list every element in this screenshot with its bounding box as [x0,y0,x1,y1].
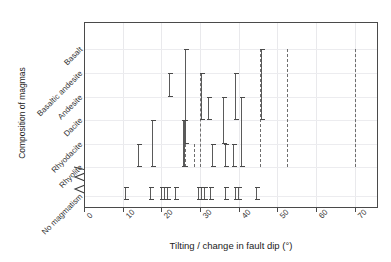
range-bar-cap [211,166,216,167]
x-tick-label: 0 [85,211,95,221]
no-magmatism-mark [225,187,226,200]
range-bar-cap [203,199,208,200]
range-bar-cap [151,166,156,167]
horizontal-gridline [84,196,378,197]
range-bar-cap [255,187,260,188]
range-bar-cap [174,187,179,188]
range-bar [235,73,236,120]
range-bar-cap [183,120,188,121]
plot-area [84,22,378,208]
range-bar-cap [151,120,156,121]
range-bar-cap [211,144,216,145]
range-bar-cap [224,199,229,200]
range-bar-cap [234,119,239,120]
range-bar-cap [224,187,229,188]
range-bar-cap [232,144,237,145]
range-bar-cap [168,96,173,97]
range-bar-cap [240,166,245,167]
range-bar [184,120,185,167]
range-bar [223,97,224,144]
no-magmatism-mark [150,187,151,200]
x-tick [316,208,317,212]
range-bar-cap [224,166,229,167]
range-bar-cap [237,199,242,200]
horizontal-gridline [84,73,378,74]
no-magmatism-mark [175,187,176,200]
range-bar-cap [222,97,227,98]
range-bar-cap [166,199,171,200]
range-bar [152,120,153,167]
range-bar-cap [224,144,229,145]
range-bar [169,73,170,97]
range-bar [225,144,226,167]
range-bar-cap [237,187,242,188]
range-bar-cap [207,97,212,98]
y-axis-title: Composition of magmas [17,43,27,183]
chart-figure: Composition of magmas BasaltBasaltic and… [0,0,391,262]
range-bar [185,49,186,144]
no-magmatism-mark [125,187,126,200]
x-tick [123,208,124,212]
x-tick-label: 50 [278,208,291,221]
x-axis-title: Tilting / change in fault dip (°) [84,240,378,251]
range-bar-cap [183,166,188,167]
range-bar-cap [260,49,265,50]
range-bar-cap [260,119,265,120]
horizontal-gridline [84,167,378,168]
x-tick [84,208,85,212]
x-tick-label: 60 [317,208,330,221]
x-tick-label: 30 [201,208,214,221]
x-tick [200,208,201,212]
range-bar-cap [184,49,189,50]
no-magmatism-mark [167,187,168,200]
no-magmatism-mark [210,187,211,200]
range-bar-cap [200,73,205,74]
range-bar [261,49,262,120]
range-bar-cap [124,199,129,200]
range-bar-cap [137,166,142,167]
horizontal-gridline [84,97,378,98]
range-bar-cap [232,166,237,167]
range-bar-cap [203,187,208,188]
range-bar-cap [137,144,142,145]
no-magmatism-mark [238,187,239,200]
range-bar-cap [209,199,214,200]
range-bar [138,144,139,167]
x-tick [277,208,278,212]
no-magmatism-mark [235,187,236,200]
horizontal-gridline [84,49,378,50]
range-bar-cap [124,187,129,188]
range-bar-cap [234,73,239,74]
range-bar-cap [207,119,212,120]
x-tick [161,208,162,212]
range-bar [208,97,209,120]
range-bar [287,49,288,167]
x-tick-label: 70 [356,208,369,221]
range-bar-cap [255,199,260,200]
horizontal-gridline [84,120,378,121]
range-bar [355,49,356,167]
range-bar-cap [149,199,154,200]
x-tick-label: 20 [162,208,175,221]
x-tick-label: 10 [124,208,137,221]
range-bar-cap [174,199,179,200]
no-magmatism-mark [256,187,257,200]
x-tick [355,208,356,212]
range-bar [241,97,242,167]
no-magmatism-mark [204,187,205,200]
range-bar [194,144,195,167]
range-bar-cap [168,73,173,74]
range-bar [212,144,213,167]
range-bar-cap [149,187,154,188]
y-tick-label: No magmatism [23,192,85,254]
x-tick-label: 40 [240,208,253,221]
range-bar-cap [200,119,205,120]
range-bar [233,144,234,167]
range-bar-cap [240,97,245,98]
x-tick [239,208,240,212]
range-bar [201,73,202,120]
range-bar-cap [209,187,214,188]
range-bar-cap [166,187,171,188]
